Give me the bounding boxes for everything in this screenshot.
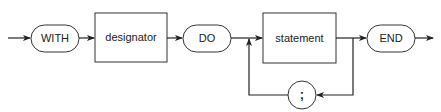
terminal-with: WITH <box>31 25 79 52</box>
terminal-end: END <box>367 25 415 52</box>
terminal-do-label: DO <box>199 32 216 44</box>
terminal-end-label: END <box>379 32 402 44</box>
terminal-semicolon: ; <box>288 81 316 109</box>
terminal-with-label: WITH <box>41 32 69 44</box>
terminal-do: DO <box>183 25 231 52</box>
nonterminal-designator-label: designator <box>105 31 157 43</box>
nonterminal-statement: statement <box>263 13 336 63</box>
with-statement-syntax-diagram: WITH designator DO statement END ; <box>0 0 441 112</box>
nonterminal-designator: designator <box>95 13 167 62</box>
terminal-semicolon-label: ; <box>300 87 304 102</box>
nonterminal-statement-label: statement <box>275 32 323 44</box>
